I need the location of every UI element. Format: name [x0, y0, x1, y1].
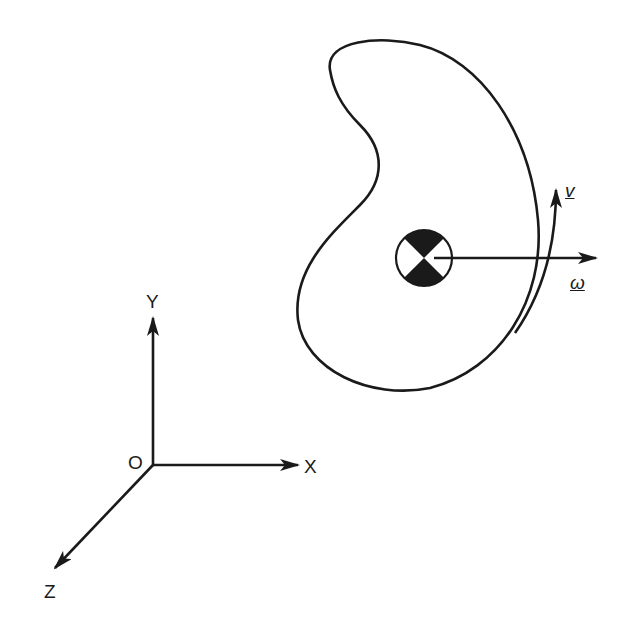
velocity-label: v — [565, 181, 575, 200]
origin-label: O — [128, 453, 143, 472]
angular-velocity-label: ω — [570, 273, 585, 292]
x-axis-label: X — [304, 457, 317, 476]
y-axis-label: Y — [146, 292, 159, 311]
z-axis-arrow — [55, 465, 153, 568]
z-axis-label: Z — [44, 582, 56, 601]
rigid-body-outline — [297, 40, 538, 390]
diagram-canvas — [0, 0, 626, 628]
